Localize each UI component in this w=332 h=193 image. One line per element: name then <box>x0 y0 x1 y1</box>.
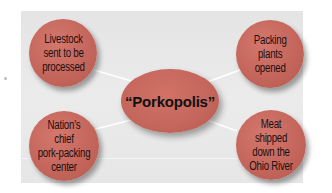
connector-bottom-left <box>96 119 135 129</box>
node-line: processed <box>42 60 85 74</box>
node-line: opened <box>254 61 287 75</box>
node-line: down the <box>249 145 292 159</box>
node-line: Livestock <box>42 32 85 46</box>
node-pork-packing-center: Nation's chief pork-packing center <box>29 111 99 181</box>
node-line: center <box>38 160 91 174</box>
node-packing-plants: Packing plants opened <box>236 20 304 88</box>
node-line: plants <box>254 47 287 61</box>
connector-bottom-right <box>207 120 237 131</box>
center-label: “Porkopolis” <box>125 93 215 110</box>
node-line: Ohio River <box>249 159 292 173</box>
node-line: shipped <box>249 131 292 145</box>
connector-top-right <box>207 70 240 82</box>
node-line: chief <box>38 132 91 146</box>
node-line: sent to be <box>42 46 85 60</box>
connector-top-left <box>94 70 135 82</box>
center-node-porkopolis: “Porkopolis” <box>121 69 219 133</box>
node-line: Nation's <box>38 118 91 132</box>
node-meat-shipped: Meat shipped down the Ohio River <box>236 110 306 180</box>
node-line: Packing <box>254 33 287 47</box>
node-line: pork-packing <box>38 146 91 160</box>
node-livestock: Livestock sent to be processed <box>29 19 97 87</box>
node-line: Meat <box>249 117 292 131</box>
